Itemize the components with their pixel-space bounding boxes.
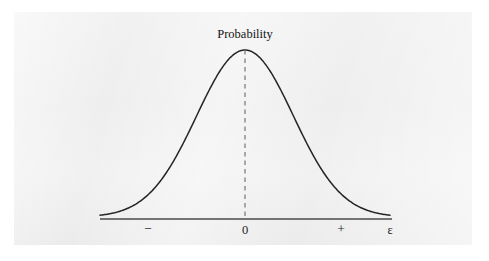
peak-label: Probability [217, 28, 273, 41]
x-axis-symbol-epsilon: ε [387, 224, 392, 237]
tick-label-plus: + [337, 222, 345, 236]
tick-label-minus: − [144, 222, 152, 236]
tick-label-zero: 0 [242, 224, 248, 237]
figure-root: Probability − 0 + ε [0, 0, 489, 261]
